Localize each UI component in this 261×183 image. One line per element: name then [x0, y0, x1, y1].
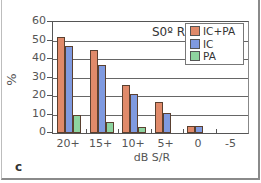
legend: IC+PAICPA: [185, 23, 244, 65]
x-tick-label: 0: [183, 137, 213, 150]
bar-ic: [163, 113, 171, 133]
x-tick-label: 5+: [151, 137, 181, 150]
y-tick-mark: [47, 40, 52, 41]
bar-ic-plus-pa: [155, 102, 163, 133]
y-tick-mark: [47, 77, 52, 78]
gridline: [53, 115, 248, 116]
y-tick-mark: [47, 95, 52, 96]
y-tick-label: 60: [22, 15, 46, 26]
legend-label: IC: [203, 38, 213, 50]
y-tick-mark: [47, 21, 52, 22]
bar-ic-plus-pa: [57, 37, 65, 133]
bar-ic-plus-pa: [90, 50, 98, 133]
bar-pa: [106, 122, 114, 133]
y-tick-label: 20: [22, 89, 46, 100]
x-tick-mark: [216, 129, 217, 133]
x-tick-label: 15+: [86, 137, 116, 150]
bar-pa: [73, 115, 81, 134]
y-tick-mark: [47, 58, 52, 59]
x-tick-mark: [151, 129, 152, 133]
bar-ic: [98, 65, 106, 133]
bar-ic: [65, 46, 73, 133]
y-axis-title: %: [4, 73, 19, 85]
legend-label: IC+PA: [203, 25, 235, 37]
y-tick-label: 0: [22, 126, 46, 137]
y-tick-mark: [47, 114, 52, 115]
y-tick-label: 50: [22, 34, 46, 45]
x-tick-mark: [118, 129, 119, 133]
legend-label: PA: [203, 50, 216, 62]
bar-ic-plus-pa: [122, 85, 130, 133]
legend-item: PA: [190, 50, 216, 62]
x-axis-title: dB S/R: [112, 151, 192, 164]
y-tick-label: 30: [22, 71, 46, 82]
gridline: [53, 78, 248, 79]
legend-item: IC+PA: [190, 25, 235, 37]
legend-swatch: [190, 51, 200, 61]
gridline: [53, 96, 248, 97]
panel-label: c: [15, 160, 22, 174]
y-tick-mark: [47, 132, 52, 133]
bar-ic: [130, 94, 138, 133]
x-tick-label: 10+: [118, 137, 148, 150]
legend-swatch: [190, 26, 200, 36]
bar-ic-plus-pa: [187, 126, 195, 133]
y-tick-label: 10: [22, 108, 46, 119]
x-tick-label: -5: [216, 137, 246, 150]
x-tick-mark: [86, 129, 87, 133]
bar-pa: [138, 127, 146, 133]
legend-item: IC: [190, 38, 213, 50]
bar-ic: [195, 126, 203, 133]
y-tick-label: 40: [22, 52, 46, 63]
x-tick-mark: [183, 129, 184, 133]
legend-swatch: [190, 39, 200, 49]
x-tick-label: 20+: [53, 137, 83, 150]
